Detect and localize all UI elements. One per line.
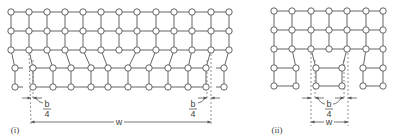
atom-node [308, 46, 314, 52]
atoms [271, 8, 386, 89]
atom-node [134, 47, 140, 53]
b-over-4-marker: b4 [189, 96, 220, 119]
w-dimension: w [31, 117, 211, 127]
atom-node [308, 27, 314, 33]
atom-node [44, 28, 50, 34]
panel-label: (ii) [272, 125, 283, 135]
atom-node [171, 47, 177, 53]
atom-node [380, 8, 386, 14]
atom-node [380, 46, 386, 52]
dislocation-lattice-figure: b4b4w(i)b4w(ii) [0, 0, 393, 140]
atom-node [289, 46, 295, 52]
arrowhead-icon [348, 96, 352, 99]
atom-node [380, 83, 386, 89]
atom-node [271, 27, 277, 33]
atom-node [116, 28, 122, 34]
atom-node [8, 9, 14, 15]
atom-node [208, 47, 214, 53]
label-b: b [44, 99, 49, 109]
atom-node [12, 84, 18, 90]
atom-node [189, 47, 195, 53]
atom-node [203, 65, 209, 71]
atom-node [271, 46, 277, 52]
arrowhead-icon [311, 120, 315, 123]
atom-node [271, 8, 277, 14]
label-w: w [115, 117, 123, 127]
atom-node [339, 65, 345, 71]
atom-node [62, 47, 68, 53]
atom-node [26, 47, 32, 53]
b-over-4-marker: b4 [22, 96, 51, 119]
atom-node [313, 83, 319, 89]
atom-node [88, 65, 94, 71]
b-over-4-marker [333, 96, 357, 104]
atom-node [165, 84, 171, 90]
atom-node [203, 84, 209, 90]
atom-node [80, 47, 86, 53]
atom-node [50, 65, 56, 71]
atom-node [360, 83, 366, 89]
atom-node [105, 84, 111, 90]
atom-node [88, 84, 94, 90]
atom-node [326, 46, 332, 52]
panel-i: b4b4w(i) [8, 9, 232, 135]
atom-node [171, 28, 177, 34]
atom-node [98, 47, 104, 53]
atom-node [308, 8, 314, 14]
atom-node [380, 27, 386, 33]
atom-node [125, 84, 131, 90]
atom-node [8, 47, 14, 53]
b-over-4-marker: b4 [302, 96, 333, 119]
arrowhead-icon [208, 120, 212, 123]
atom-node [339, 83, 345, 89]
atom-node [380, 65, 386, 71]
atom-node [153, 47, 159, 53]
atom-node [80, 28, 86, 34]
atom-node [134, 28, 140, 34]
atom-node [226, 28, 232, 34]
atom-node [44, 47, 50, 53]
label-4: 4 [44, 109, 49, 119]
atom-node [293, 83, 299, 89]
label-w: w [325, 117, 333, 127]
atom-node [226, 47, 232, 53]
label-b: b [326, 99, 331, 109]
atom-node [363, 8, 369, 14]
atom-node [30, 84, 36, 90]
atom-node [26, 9, 32, 15]
atom-node [189, 9, 195, 15]
atom-node [30, 65, 36, 71]
panel-label: (i) [11, 125, 20, 135]
atom-node [271, 65, 277, 71]
atom-node [363, 46, 369, 52]
atom-node [105, 65, 111, 71]
atom-node [98, 28, 104, 34]
atom-node [125, 65, 131, 71]
atom-node [146, 65, 152, 71]
panel-ii: b4w(ii) [271, 8, 386, 135]
atom-node [44, 9, 50, 15]
atom-node [26, 28, 32, 34]
atom-node [344, 27, 350, 33]
atom-node [116, 47, 122, 53]
atom-node [289, 8, 295, 14]
atom-node [208, 9, 214, 15]
atom-node [12, 65, 18, 71]
atom-node [80, 9, 86, 15]
atom-node [62, 28, 68, 34]
arrowhead-icon [308, 96, 312, 99]
atoms [8, 9, 232, 90]
w-dimension: w [311, 117, 348, 127]
atom-node [221, 84, 227, 90]
atom-node [146, 84, 152, 90]
atom-node [344, 8, 350, 14]
atom-node [68, 65, 74, 71]
atom-node [171, 9, 177, 15]
atom-node [116, 9, 122, 15]
atom-node [226, 9, 232, 15]
atom-node [50, 84, 56, 90]
atom-node [326, 8, 332, 14]
atom-node [360, 65, 366, 71]
atom-node [8, 28, 14, 34]
atom-node [185, 65, 191, 71]
